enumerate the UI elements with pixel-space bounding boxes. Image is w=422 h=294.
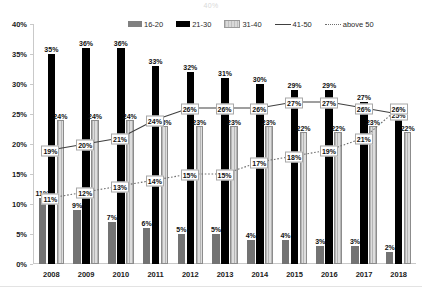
- line-point-label: 26%: [215, 104, 233, 115]
- bar-31-40: 23%: [161, 126, 169, 264]
- line-point-label: 15%: [215, 170, 233, 181]
- bar-value-label: 23%: [227, 119, 241, 126]
- bar-31-40: 23%: [230, 126, 238, 264]
- bar-16-20: 5%: [212, 234, 220, 264]
- bar-value-label: 23%: [366, 119, 380, 126]
- bar-16-20: 4%: [247, 240, 255, 264]
- bottom-divider: [0, 286, 422, 287]
- y-tick-mark: [30, 174, 33, 175]
- bar-group: 5%32%23%: [173, 24, 208, 264]
- x-tick-label: 2017: [347, 270, 382, 284]
- bar-set: 4%29%22%: [277, 24, 312, 264]
- line-point-label: 11%: [42, 194, 60, 205]
- y-tick-mark: [30, 264, 33, 265]
- bar-set: 5%32%23%: [173, 24, 208, 264]
- line-point-label: 21%: [355, 134, 373, 145]
- y-tick-label: 20%: [1, 140, 27, 149]
- y-tick-mark: [30, 24, 33, 25]
- line-point-label: 18%: [285, 152, 303, 163]
- line-point-label: 26%: [390, 104, 408, 115]
- bar-16-20: 2%: [386, 252, 394, 264]
- bar-21-30: 33%: [152, 66, 160, 264]
- line-point-label: 26%: [181, 104, 199, 115]
- bar-value-label: 4%: [246, 232, 256, 239]
- line-point-label: 26%: [355, 104, 373, 115]
- bar-value-label: 23%: [262, 119, 276, 126]
- y-tick-label: 15%: [1, 170, 27, 179]
- y-tick-label: 0%: [1, 260, 27, 269]
- bar-value-label: 24%: [53, 113, 67, 120]
- bar-value-label: 22%: [331, 125, 345, 132]
- bar-21-30: 35%: [48, 54, 56, 264]
- bar-value-label: 22%: [401, 125, 415, 132]
- x-tick-label: 2013: [208, 270, 243, 284]
- y-tick-mark: [30, 84, 33, 85]
- y-tick-mark: [30, 204, 33, 205]
- bar-16-20: 5%: [178, 234, 186, 264]
- bar-group: 2%25%22%: [381, 24, 416, 264]
- line-point-label: 24%: [146, 116, 164, 127]
- bar-16-20: 3%: [316, 246, 324, 264]
- x-tick-label: 2008: [34, 270, 69, 284]
- bar-set: 2%25%22%: [381, 24, 416, 264]
- bar-set: 11%35%24%: [34, 24, 69, 264]
- bar-group: 11%35%24%: [34, 24, 69, 264]
- bar-value-label: 36%: [79, 40, 93, 47]
- line-point-label: 12%: [76, 188, 94, 199]
- bar-value-label: 3%: [350, 238, 360, 245]
- bar-value-label: 4%: [280, 232, 290, 239]
- y-tick-label: 30%: [1, 80, 27, 89]
- line-point-label: 13%: [111, 182, 129, 193]
- y-tick-mark: [30, 114, 33, 115]
- bar-16-20: 7%: [108, 222, 116, 264]
- bar-21-30: 27%: [360, 102, 368, 264]
- line-point-label: 14%: [146, 176, 164, 187]
- line-point-label: 19%: [41, 146, 59, 157]
- y-tick-mark: [30, 144, 33, 145]
- chart-container: 40% 16-20 21-30 31-40 41-50 above 50 0%5…: [0, 0, 422, 294]
- bar-value-label: 27%: [357, 94, 371, 101]
- y-tick-mark: [30, 54, 33, 55]
- line-point-label: 19%: [320, 146, 338, 157]
- y-tick-label: 25%: [1, 110, 27, 119]
- bar-value-label: 6%: [142, 220, 152, 227]
- bar-value-label: 7%: [107, 214, 117, 221]
- line-point-label: 27%: [320, 98, 338, 109]
- line-point-label: 17%: [250, 158, 268, 169]
- line-point-label: 20%: [76, 140, 94, 151]
- y-tick-mark: [30, 234, 33, 235]
- bar-31-40: 24%: [57, 120, 65, 264]
- bar-value-label: 36%: [114, 40, 128, 47]
- bar-value-label: 29%: [322, 82, 336, 89]
- bar-value-label: 23%: [192, 119, 206, 126]
- x-tick-label: 2018: [381, 270, 416, 284]
- x-tick-label: 2012: [173, 270, 208, 284]
- bar-value-label: 32%: [183, 64, 197, 71]
- bar-value-label: 35%: [44, 46, 58, 53]
- bar-16-20: 3%: [351, 246, 359, 264]
- bar-group: 3%29%22%: [312, 24, 347, 264]
- x-tick-label: 2010: [103, 270, 138, 284]
- bar-31-40: 23%: [369, 126, 377, 264]
- bar-group: 5%31%23%: [208, 24, 243, 264]
- bar-21-30: 29%: [325, 90, 333, 264]
- bar-21-30: 32%: [187, 72, 195, 264]
- x-tick-label: 2014: [242, 270, 277, 284]
- plot-area: 0%5%10%15%20%25%30%35%40% 11%35%24%9%36%…: [33, 24, 416, 264]
- x-tick-label: 2011: [138, 270, 173, 284]
- bar-21-30: 29%: [291, 90, 299, 264]
- bar-31-40: 22%: [404, 132, 412, 264]
- bar-value-label: 30%: [253, 76, 267, 83]
- bar-value-label: 31%: [218, 70, 232, 77]
- bar-value-label: 29%: [287, 82, 301, 89]
- y-tick-label: 40%: [1, 20, 27, 29]
- bar-set: 3%29%22%: [312, 24, 347, 264]
- bar-value-label: 22%: [296, 125, 310, 132]
- bar-group: 4%30%23%: [242, 24, 277, 264]
- line-point-label: 26%: [250, 104, 268, 115]
- x-axis-labels: 2008200920102011201220132014201520162017…: [34, 270, 416, 284]
- x-tick-label: 2015: [277, 270, 312, 284]
- bar-31-40: 23%: [196, 126, 204, 264]
- x-tick-label: 2016: [312, 270, 347, 284]
- bar-set: 6%33%23%: [138, 24, 173, 264]
